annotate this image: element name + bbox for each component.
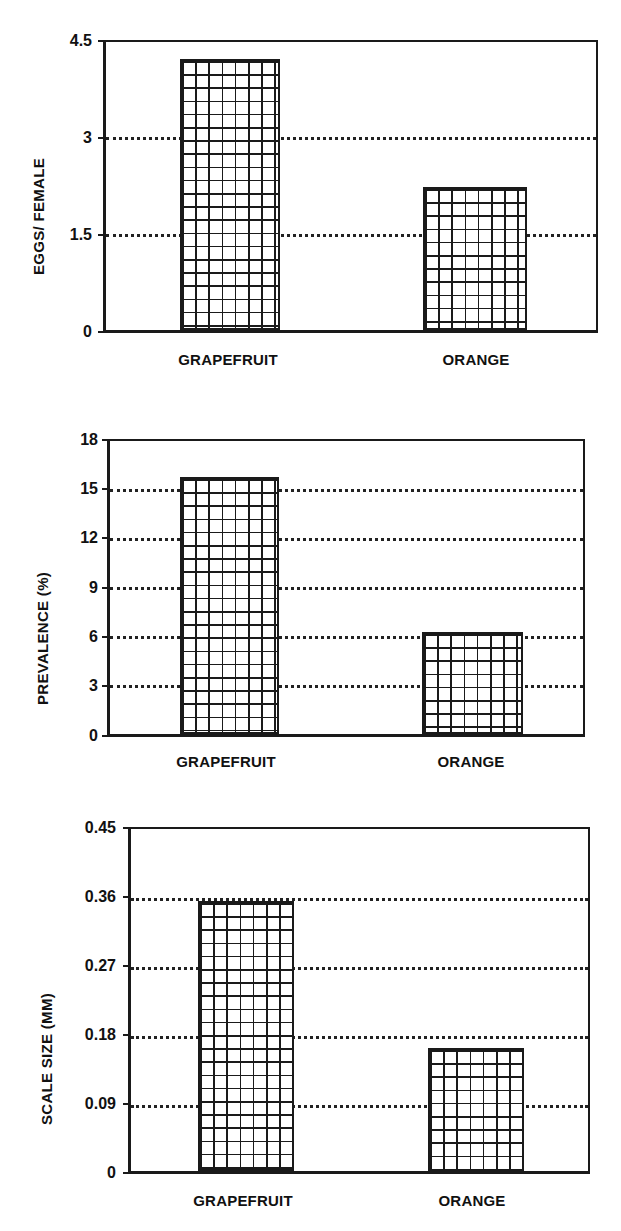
y-tick-label: 0.09 — [44, 1095, 116, 1113]
y-tick-label: 3 — [36, 129, 92, 147]
y-tick-label: 0.18 — [44, 1026, 116, 1044]
y-tick-label: 6 — [42, 628, 98, 646]
bar-grapefruit — [198, 901, 294, 1171]
chart-scale-size-mm: SCALE SIZE (MM) 0.45 0.36 0.27 0.18 0.09… — [0, 800, 621, 1231]
plot-area — [128, 827, 590, 1174]
y-tick-label: 0.27 — [44, 957, 116, 975]
bar-orange — [428, 1048, 524, 1171]
y-tick-label: 0 — [44, 1164, 116, 1182]
chart-prevalence-percent: PREVALENCE (%) 18 15 12 9 6 3 0 GRAPEFRU… — [0, 395, 621, 790]
x-category-label-grapefruit: GRAPEFRUIT — [193, 1192, 293, 1209]
plot-area — [107, 439, 585, 737]
y-tick-label: 15 — [42, 480, 98, 498]
y-tick-label: 4.5 — [36, 32, 92, 50]
x-category-label-orange: ORANGE — [438, 1192, 505, 1209]
y-tick-label: 0.36 — [44, 888, 116, 906]
y-tick-label: 0 — [36, 323, 92, 341]
y-tick-label: 9 — [42, 579, 98, 597]
bar-grapefruit — [180, 477, 279, 734]
x-category-label-grapefruit: GRAPEFRUIT — [178, 351, 278, 368]
bar-orange — [423, 187, 527, 330]
y-tick-label: 1.5 — [36, 226, 92, 244]
x-category-label-orange: ORANGE — [442, 351, 509, 368]
y-axis-title: EGGS/ FEMALE — [30, 158, 47, 275]
y-tick-label: 0 — [42, 727, 98, 745]
y-tick-label: 18 — [42, 431, 98, 449]
bar-grapefruit — [180, 59, 280, 330]
plot-area — [103, 40, 598, 333]
bar-orange — [422, 632, 523, 734]
y-tick-label: 12 — [42, 529, 98, 547]
y-tick-label: 3 — [42, 677, 98, 695]
y-tick-label: 0.45 — [44, 819, 116, 837]
chart-eggs-per-female: EGGS/ FEMALE 4.5 3 1.5 0 GRAPEFRUIT ORAN… — [0, 0, 621, 390]
x-category-label-orange: ORANGE — [437, 753, 504, 770]
x-category-label-grapefruit: GRAPEFRUIT — [176, 753, 276, 770]
